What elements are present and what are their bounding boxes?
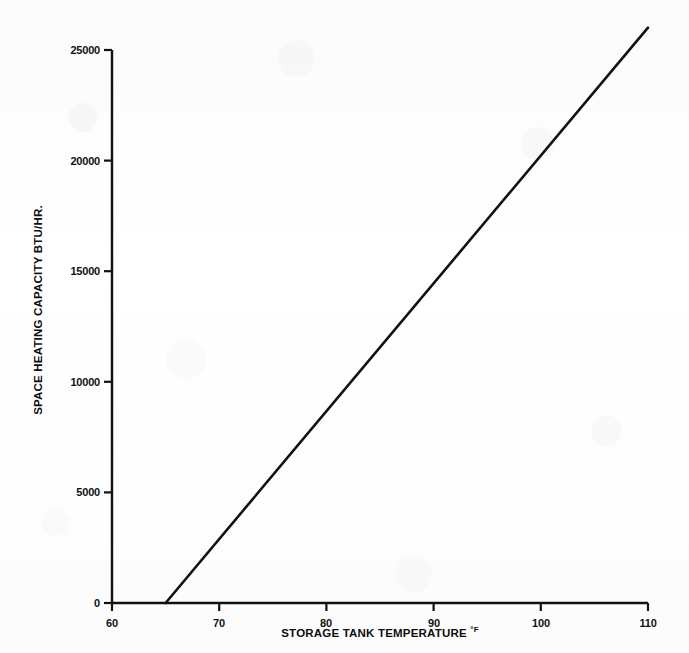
y-tick-label-5000: 5000 (56, 486, 100, 498)
x-axis-title-text: STORAGE TANK TEMPERATURE (281, 627, 470, 639)
y-tick-label-10000: 10000 (52, 376, 100, 388)
degree-fahrenheit-icon: °F (470, 625, 479, 634)
y-axis-title: SPACE HEATING CAPACITY BTU/HR. (32, 205, 44, 415)
x-tick-label-110: 110 (639, 617, 656, 629)
chart-plot-area (0, 0, 689, 653)
x-tick-label-60: 60 (106, 617, 118, 629)
x-axis-title: STORAGE TANK TEMPERATURE °F (281, 625, 479, 639)
chart-page: 0 5000 10000 15000 20000 25000 60 70 80 … (0, 0, 689, 653)
x-tick-label-100: 100 (532, 617, 550, 629)
x-tick-label-70: 70 (213, 617, 225, 629)
y-tick-label-15000: 15000 (52, 265, 100, 277)
data-series-line (166, 28, 648, 603)
y-tick-label-0: 0 (56, 597, 100, 609)
y-tick-label-25000: 25000 (52, 44, 100, 56)
y-tick-label-20000: 20000 (52, 155, 100, 167)
